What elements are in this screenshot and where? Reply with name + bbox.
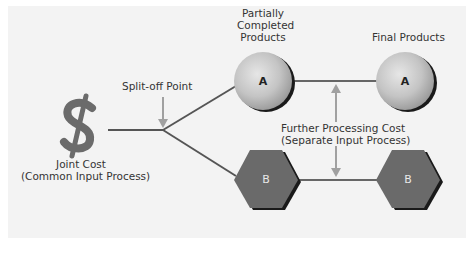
partial-label-line2: Completed xyxy=(237,19,289,31)
partial-label-line3: Products xyxy=(237,31,289,43)
partial-products-label: Partially Completed Products xyxy=(237,7,289,43)
further-processing-label: Further Processing Cost (Separate Input … xyxy=(281,122,391,146)
joint-cost-diagram: Split-off Point Partially Completed Prod… xyxy=(0,0,466,261)
branch-b-line xyxy=(163,130,236,176)
split-off-arrow-icon xyxy=(158,97,168,128)
split-off-label: Split-off Point xyxy=(122,80,192,92)
product-a-final-letter: A xyxy=(395,75,415,88)
joint-cost-line1: Joint Cost xyxy=(21,158,141,170)
branch-a-line xyxy=(163,86,236,130)
product-b-partial-letter: B xyxy=(256,173,276,186)
product-a-partial-letter: A xyxy=(253,75,273,88)
dollar-sign-icon xyxy=(64,96,92,156)
product-b-final-letter: B xyxy=(398,173,418,186)
joint-cost-line2: (Common Input Process) xyxy=(21,170,141,182)
partial-label-line1: Partially xyxy=(237,7,289,19)
further-label-line2: (Separate Input Process) xyxy=(281,134,391,146)
final-products-label: Final Products xyxy=(372,31,444,43)
further-label-line1: Further Processing Cost xyxy=(281,122,391,134)
joint-cost-label: Joint Cost (Common Input Process) xyxy=(21,158,141,182)
